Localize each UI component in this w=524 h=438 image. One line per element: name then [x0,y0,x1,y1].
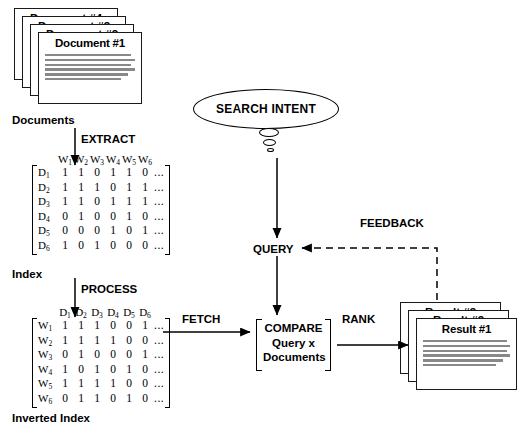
arrow-feedback [302,248,437,300]
diagram-canvas: Document #4 Document #3 Document #2 Docu… [0,0,524,438]
connector-arrows [0,0,524,438]
